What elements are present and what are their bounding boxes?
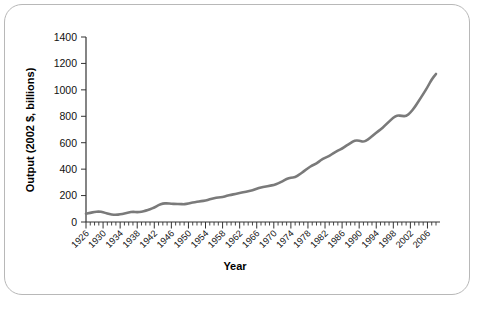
- x-axis-tick-label: 1938: [121, 228, 143, 250]
- x-axis-tick-label: 1962: [223, 228, 245, 250]
- chart-axes: [86, 37, 440, 222]
- x-axis-tick-label: 1990: [343, 228, 365, 250]
- x-axis-tick-label: 1926: [69, 228, 91, 250]
- x-axis-tick-label: 1966: [240, 228, 262, 250]
- y-axis-tick-label: 800: [59, 110, 77, 122]
- y-axis-tick-label: 1200: [54, 57, 78, 69]
- x-axis-tick-label: 1982: [308, 228, 330, 250]
- x-axis-tick-label: 1942: [138, 228, 160, 250]
- y-axis-tick-label: 1000: [54, 84, 78, 96]
- x-axis-tick-label: 1978: [291, 228, 313, 250]
- y-axis-tick-label: 1400: [54, 31, 78, 43]
- y-axis-ticks: [81, 37, 86, 222]
- y-axis-title: Output (2002 $, billions): [24, 67, 36, 192]
- x-axis-tick-label: 1974: [274, 228, 296, 250]
- data-series-output: [86, 74, 436, 215]
- x-axis-tick-labels: 1926193019341938194219461950195419581962…: [69, 228, 432, 250]
- x-axis-tick-label: 1946: [155, 228, 177, 250]
- x-axis-tick-label: 1986: [325, 228, 347, 250]
- x-axis-tick-label: 1950: [172, 228, 194, 250]
- x-axis-major-ticks: [86, 222, 427, 229]
- x-axis-tick-label: 1930: [86, 228, 108, 250]
- x-axis-tick-label: 1954: [189, 228, 211, 250]
- x-axis-title: Year: [223, 260, 247, 272]
- x-axis-tick-label: 1994: [360, 228, 382, 250]
- line-chart: 0200400600800100012001400 19261930193419…: [0, 0, 482, 311]
- y-axis-tick-label: 400: [59, 163, 77, 175]
- chart-container: 0200400600800100012001400 19261930193419…: [0, 0, 482, 311]
- x-axis-tick-label: 1958: [206, 228, 228, 250]
- x-axis-tick-label: 1970: [257, 228, 279, 250]
- x-axis-tick-label: 1934: [104, 228, 126, 250]
- y-axis-tick-label: 200: [59, 189, 77, 201]
- y-axis-tick-label: 0: [71, 216, 77, 228]
- x-axis-tick-label: 2006: [411, 228, 433, 250]
- y-axis-tick-label: 600: [59, 137, 77, 149]
- y-axis-tick-labels: 0200400600800100012001400: [54, 31, 78, 228]
- x-axis-tick-label: 1998: [377, 228, 399, 250]
- x-axis-tick-label: 2002: [394, 228, 416, 250]
